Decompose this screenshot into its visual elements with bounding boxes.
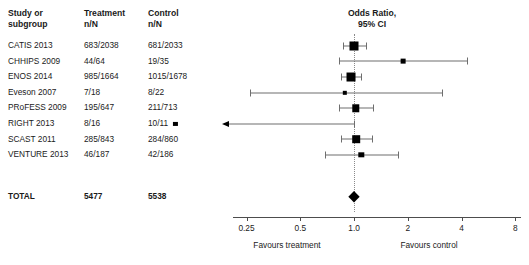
cell-study: PRoFESS 2009	[8, 100, 67, 116]
plot-title: Odds Ratio, 95% CI	[302, 8, 442, 29]
cell-study: VENTURE 2013	[8, 147, 68, 163]
x-axis-tick	[408, 217, 409, 221]
x-axis-tick-label: 4	[442, 223, 482, 233]
forest-plot-figure: Study or subgroup Treatment n/N Control …	[0, 0, 529, 265]
table-row: RIGHT 20138/1610/11	[0, 116, 214, 132]
ci-cap-right	[372, 136, 373, 143]
pooled-estimate-row	[214, 189, 529, 205]
ci-left-arrow-icon	[222, 121, 229, 127]
ci-cap-right	[373, 105, 374, 112]
table-row-total: TOTAL54775538	[0, 189, 214, 205]
cell-treatment: 195/647	[84, 100, 114, 116]
cell-treatment: 683/2038	[84, 38, 119, 54]
ci-cap-left	[325, 151, 326, 158]
cell-control: 284/860	[148, 132, 178, 148]
table-row: CHHIPS 200944/6419/35	[0, 54, 214, 70]
study-effect-marker	[350, 41, 359, 50]
cell-study: CATIS 2013	[8, 38, 53, 54]
cell-study: RIGHT 2013	[8, 116, 54, 132]
cell-treatment: 285/843	[84, 132, 114, 148]
cell-study: Eveson 2007	[8, 85, 56, 101]
favours-control-label: Favours control	[364, 240, 494, 250]
cell-control: 1015/1678	[148, 69, 187, 85]
forest-row	[214, 132, 529, 148]
x-axis-tick-label: 2	[388, 223, 428, 233]
ci-cap-right	[442, 89, 443, 96]
cell-total-control: 5538	[148, 189, 166, 205]
ci-cap-right	[467, 58, 468, 65]
study-effect-marker	[343, 90, 347, 94]
ci-cap-left	[341, 73, 342, 80]
study-table: Study or subgroup Treatment n/N Control …	[0, 0, 214, 215]
forest-row	[214, 147, 529, 163]
forest-row	[214, 54, 529, 70]
forest-row	[214, 100, 529, 116]
x-axis-tick	[515, 217, 516, 221]
x-axis-tick	[462, 217, 463, 221]
cell-treatment: 44/64	[84, 54, 105, 70]
study-effect-marker	[359, 152, 364, 157]
table-row: VENTURE 201346/18742/186	[0, 147, 214, 163]
cell-treatment: 7/18	[84, 85, 100, 101]
x-axis-tick	[300, 217, 301, 221]
ci-cap-right	[398, 151, 399, 158]
column-header-control: Control n/N	[148, 8, 210, 29]
cell-control: 10/11	[148, 116, 168, 132]
study-effect-marker	[401, 59, 406, 64]
ci-cap-left	[341, 136, 342, 143]
column-header-treatment: Treatment n/N	[84, 8, 144, 29]
x-axis-tick	[247, 217, 248, 221]
x-axis-line	[233, 217, 521, 218]
ci-cap-right	[366, 42, 367, 49]
x-axis-tick	[354, 217, 355, 221]
cell-treatment: 8/16	[84, 116, 100, 132]
table-row: ENOS 2014985/16641015/1678	[0, 69, 214, 85]
ci-cap-left	[250, 89, 251, 96]
table-row: Eveson 20077/188/22	[0, 85, 214, 101]
ci-cap-right	[354, 120, 355, 127]
cell-treatment: 46/187	[84, 147, 109, 163]
cell-total-treatment: 5477	[84, 189, 102, 205]
x-axis-tick-label: 0.25	[227, 223, 267, 233]
cell-treatment: 985/1664	[84, 69, 119, 85]
study-effect-marker	[173, 122, 177, 126]
table-header-row: Study or subgroup Treatment n/N Control …	[0, 8, 214, 34]
table-row: PRoFESS 2009195/647211/713	[0, 100, 214, 116]
x-axis-tick-label: 1.0	[334, 223, 374, 233]
x-axis-tick-label: 0.5	[280, 223, 320, 233]
ci-cap-left	[339, 58, 340, 65]
confidence-interval-line	[229, 123, 354, 124]
cell-study: SCAST 2011	[8, 132, 56, 148]
pooled-effect-diamond	[348, 191, 360, 203]
ci-cap-left	[343, 42, 344, 49]
cell-total-label: TOTAL	[8, 189, 35, 205]
study-effect-marker	[352, 104, 359, 111]
cell-control: 211/713	[148, 100, 177, 116]
column-header-study: Study or subgroup	[8, 8, 70, 29]
study-effect-marker	[353, 136, 361, 144]
cell-control: 19/35	[148, 54, 169, 70]
cell-study: ENOS 2014	[8, 69, 52, 85]
forest-row	[214, 38, 529, 54]
forest-row	[214, 85, 529, 101]
study-effect-marker	[346, 73, 355, 82]
favours-treatment-label: Favours treatment	[222, 240, 352, 250]
forest-row	[214, 69, 529, 85]
ci-cap-left	[339, 105, 340, 112]
table-row: SCAST 2011285/843284/860	[0, 132, 214, 148]
table-row: CATIS 2013683/2038681/2033	[0, 38, 214, 54]
plot-area: Odds Ratio, 95% CI 0.250.51.0248 Favours…	[214, 0, 529, 265]
cell-control: 42/186	[148, 147, 173, 163]
forest-row	[214, 116, 529, 132]
x-axis-tick-label: 8	[495, 223, 529, 233]
cell-study: CHHIPS 2009	[8, 54, 60, 70]
cell-control: 681/2033	[148, 38, 183, 54]
cell-control: 8/22	[148, 85, 164, 101]
ci-cap-right	[361, 73, 362, 80]
